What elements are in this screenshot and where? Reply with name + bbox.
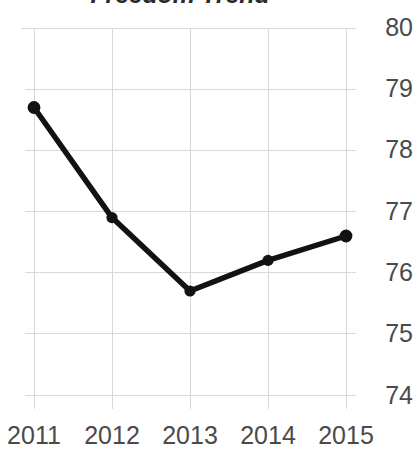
y-axis-tick-74: 74 xyxy=(367,383,413,408)
y-axis-tick-80: 80 xyxy=(367,15,413,40)
data-point-2014 xyxy=(262,255,273,266)
x-axis-tick-2015: 2015 xyxy=(301,423,391,448)
y-axis-tick-76: 76 xyxy=(367,260,413,285)
y-axis-tick-75: 75 xyxy=(367,321,413,346)
x-axis-tick-2012: 2012 xyxy=(67,423,157,448)
plot-area xyxy=(0,0,417,457)
y-axis-tick-78: 78 xyxy=(367,137,413,162)
chart-container: Freedom Trend xyxy=(0,0,417,457)
data-point-2015 xyxy=(340,230,353,243)
data-point-2013 xyxy=(184,285,195,296)
data-point-2011 xyxy=(28,101,41,114)
data-point-2012 xyxy=(106,212,117,223)
x-axis-tick-2013: 2013 xyxy=(145,423,235,448)
horizontal-gridlines xyxy=(21,28,356,395)
y-axis-tick-79: 79 xyxy=(367,76,413,101)
vertical-gridlines xyxy=(34,28,346,409)
y-axis-tick-77: 77 xyxy=(367,199,413,224)
x-axis-tick-2014: 2014 xyxy=(223,423,313,448)
